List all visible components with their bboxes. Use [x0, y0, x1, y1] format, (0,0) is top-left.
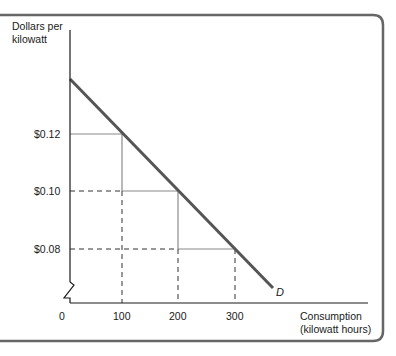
- guide-lines-dashed: [70, 191, 235, 303]
- x-axis-label: Consumption (kilowatt hours): [300, 310, 371, 335]
- demand-chart: Dollars per kilowatt D $0.12 $0.10 $0.08…: [0, 0, 396, 356]
- axes: [64, 30, 368, 303]
- chart-frame: [0, 15, 383, 341]
- guide-lines-solid: [70, 134, 235, 249]
- x-tick-label: 0: [59, 310, 65, 322]
- y-tick-label: $0.12: [34, 128, 60, 140]
- demand-curve: [70, 79, 273, 288]
- axis-break-icon: [64, 282, 74, 303]
- y-axis-label: Dollars per kilowatt: [12, 20, 66, 45]
- x-tick-label: 100: [113, 310, 131, 322]
- x-tick-label: 200: [169, 310, 187, 322]
- y-tick-label: $0.10: [34, 185, 60, 197]
- demand-curve-label: D: [276, 286, 284, 298]
- y-tick-label: $0.08: [34, 243, 60, 255]
- x-tick-label: 300: [226, 310, 244, 322]
